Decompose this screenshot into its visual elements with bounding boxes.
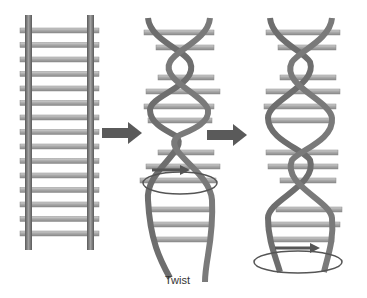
- partially-twisted-ladder: [140, 18, 220, 282]
- ladder-rung: [268, 164, 338, 169]
- twist-diagram: [0, 0, 367, 298]
- ladder-rung: [266, 222, 340, 227]
- ladder-rail-right: [87, 15, 94, 250]
- arrow-right-icon: [102, 122, 142, 144]
- ladder-rung: [152, 222, 212, 227]
- arrow-right-icon: [207, 124, 247, 146]
- ladder-rail-left: [25, 15, 32, 250]
- straight-ladder: [20, 15, 99, 250]
- caption-twist: Twist: [165, 274, 190, 286]
- ladder-rung: [270, 237, 334, 242]
- double-helix: [254, 18, 342, 273]
- ladder-rung: [150, 207, 214, 212]
- ladder-rung: [156, 237, 212, 242]
- ladder-rung: [158, 150, 214, 155]
- ladder-rung: [268, 118, 332, 123]
